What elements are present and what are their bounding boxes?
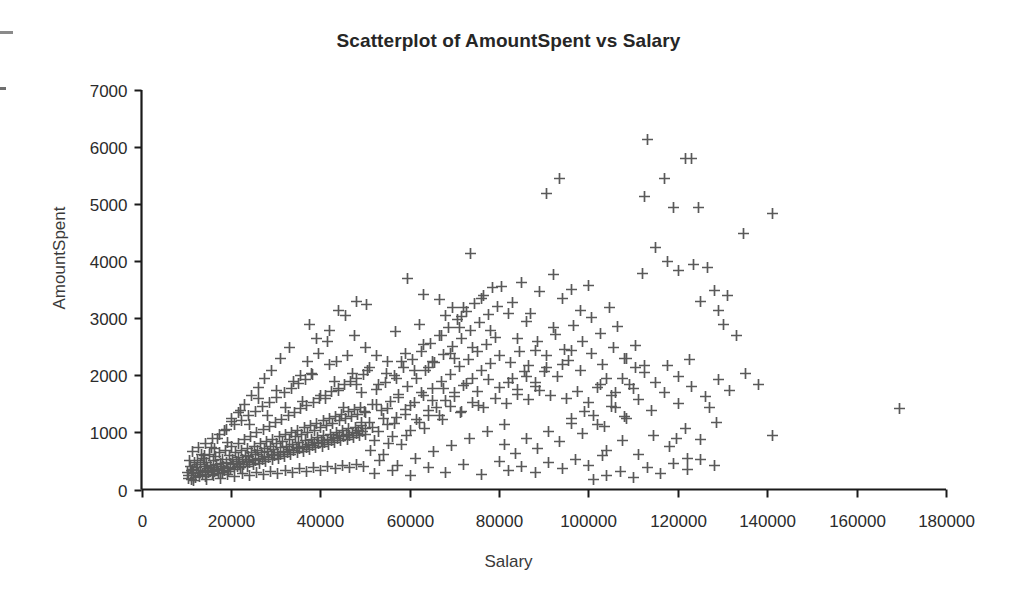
x-tick-label-80000: 80000 <box>476 512 523 531</box>
scatter-series-0 <box>182 134 905 486</box>
x-tick-label-20000: 20000 <box>208 512 255 531</box>
y-tick-label-4000: 4000 <box>90 253 128 272</box>
y-tick-label-5000: 5000 <box>90 196 128 215</box>
x-tick-label-100000: 100000 <box>560 512 617 531</box>
x-tick-label-160000: 160000 <box>829 512 886 531</box>
x-tick-label-60000: 60000 <box>387 512 434 531</box>
x-tick-label-180000: 180000 <box>918 512 975 531</box>
x-tick-label-0: 0 <box>138 512 147 531</box>
y-tick-label-6000: 6000 <box>90 139 128 158</box>
x-tick-label-120000: 120000 <box>650 512 707 531</box>
plot-area: 0100020003000400050006000700002000040000… <box>0 0 1017 603</box>
y-tick-label-0: 0 <box>118 482 127 501</box>
y-tick-label-7000: 7000 <box>90 82 128 101</box>
scatterplot-figure: Scatterplot of AmountSpent vs Salary Amo… <box>0 0 1017 603</box>
y-tick-label-3000: 3000 <box>90 310 128 329</box>
y-tick-label-1000: 1000 <box>90 424 128 443</box>
y-tick-label-2000: 2000 <box>90 367 128 386</box>
x-tick-label-140000: 140000 <box>739 512 796 531</box>
data-points-group <box>182 134 905 486</box>
x-tick-label-40000: 40000 <box>297 512 344 531</box>
